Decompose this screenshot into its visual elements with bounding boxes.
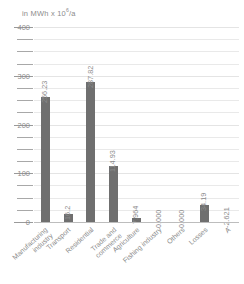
bar-value-label: 287.82 bbox=[86, 65, 95, 87]
y-tick-minor bbox=[17, 149, 33, 150]
y-axis-tick-label: 400 bbox=[0, 23, 30, 32]
gridline-major bbox=[34, 173, 239, 174]
gridline-minor bbox=[34, 185, 239, 186]
x-axis-tick-label: Losses bbox=[187, 226, 209, 246]
x-axis-tick-label-line: Others bbox=[165, 226, 186, 246]
bar-value-label: 0.000 bbox=[154, 210, 163, 228]
y-tick-minor bbox=[17, 198, 33, 199]
x-axis-baseline bbox=[34, 222, 239, 223]
y-tick-minor bbox=[17, 100, 33, 101]
bar-value-label: 34.19 bbox=[199, 193, 208, 211]
y-tick-minor bbox=[17, 210, 33, 211]
gridline-minor bbox=[34, 137, 239, 138]
y-tick-minor bbox=[17, 64, 33, 65]
bar-chart: in MWh x 106/a 4003002001000 256.2316.22… bbox=[0, 0, 244, 284]
y-tick-minor bbox=[17, 112, 33, 113]
bar[interactable] bbox=[86, 82, 95, 222]
gridline-minor bbox=[34, 198, 239, 199]
bar[interactable] bbox=[41, 97, 50, 222]
bar-value-label: 114.93 bbox=[108, 150, 117, 172]
x-axis-tick-label-line: Losses bbox=[187, 226, 209, 246]
y-axis-tick-label: 100 bbox=[0, 169, 30, 178]
gridline-major bbox=[34, 76, 239, 77]
y-axis-tick-label: 300 bbox=[0, 71, 30, 80]
y-tick-minor bbox=[17, 88, 33, 89]
gridline-minor bbox=[34, 88, 239, 89]
gridline-minor bbox=[34, 112, 239, 113]
x-axis-tick-label: Others bbox=[165, 226, 186, 246]
y-tick-minor bbox=[17, 137, 33, 138]
bar-value-label: 256.23 bbox=[40, 81, 49, 103]
y-axis-tick-label: 200 bbox=[0, 120, 30, 129]
bar[interactable] bbox=[109, 166, 118, 222]
bar-value-label: 16.2 bbox=[63, 206, 72, 220]
y-axis-caption: in MWh x 106/a bbox=[22, 7, 76, 18]
y-tick-minor bbox=[17, 51, 33, 52]
gridline-minor bbox=[34, 149, 239, 150]
gridline-major bbox=[34, 125, 239, 126]
plot-area bbox=[34, 27, 239, 222]
gridline-minor bbox=[34, 39, 239, 40]
gridline-minor bbox=[34, 64, 239, 65]
gridline-minor bbox=[34, 100, 239, 101]
y-tick-minor bbox=[17, 39, 33, 40]
y-tick-minor bbox=[17, 161, 33, 162]
gridline-major bbox=[34, 27, 239, 28]
y-tick-minor bbox=[17, 185, 33, 186]
gridline-minor bbox=[34, 51, 239, 52]
y-axis-tick-label: 0 bbox=[0, 218, 30, 227]
gridline-minor bbox=[34, 161, 239, 162]
